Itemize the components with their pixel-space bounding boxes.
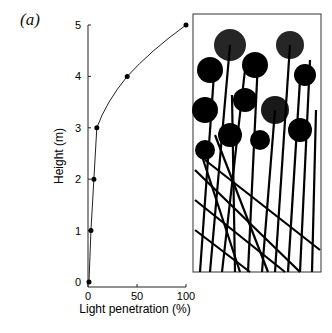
- plant-illustration: [192, 14, 321, 272]
- svg-text:1: 1: [75, 225, 81, 237]
- svg-text:5: 5: [75, 19, 81, 31]
- svg-text:0: 0: [75, 276, 81, 288]
- y-ticks: 012345: [75, 19, 91, 288]
- data-points: [86, 23, 188, 285]
- figure: (a) 012345 050100 Light penetration (%) …: [0, 0, 332, 333]
- y-axis-label: Height (m): [52, 128, 66, 184]
- svg-text:100: 100: [177, 290, 195, 302]
- svg-text:3: 3: [75, 122, 81, 134]
- data-line: [89, 25, 186, 282]
- svg-text:0: 0: [85, 290, 91, 302]
- svg-text:2: 2: [75, 173, 81, 185]
- svg-text:4: 4: [75, 70, 81, 82]
- x-axis-label: Light penetration (%): [79, 302, 190, 316]
- svg-text:50: 50: [131, 290, 143, 302]
- chart: 012345 050100 Light penetration (%) Heig…: [0, 0, 332, 333]
